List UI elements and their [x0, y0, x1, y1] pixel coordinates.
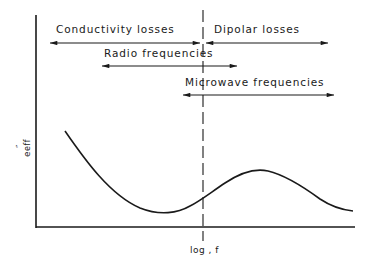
loss-diagram: Conductivity losses Dipolar losses Radio… [0, 0, 370, 266]
svg-text:″: ″ [15, 144, 25, 148]
y-axis-label: eeff ″ [15, 139, 32, 157]
radio-frequencies-label: Radio frequencies [104, 47, 213, 59]
x-axis-label: log , f [190, 245, 219, 255]
microwave-frequencies-label: Microwave frequencies [185, 76, 325, 88]
loss-factor-curve [65, 131, 353, 213]
conductivity-losses-label: Conductivity losses [56, 23, 175, 35]
dipolar-losses-label: Dipolar losses [214, 23, 300, 35]
